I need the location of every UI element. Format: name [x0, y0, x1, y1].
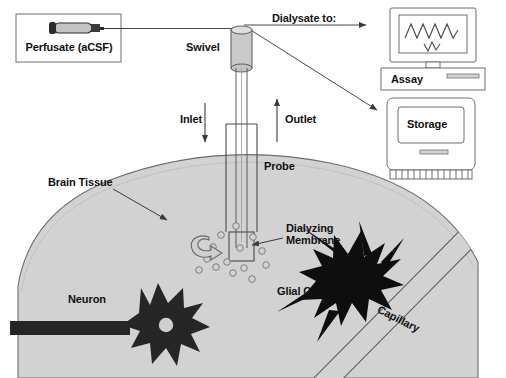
outlet-label: Outlet — [285, 113, 316, 125]
syringe-plunger — [49, 22, 56, 34]
storage-vents — [390, 170, 472, 179]
flow-arrows — [205, 99, 277, 142]
assay-label: Assay — [391, 73, 423, 85]
assay-slot — [447, 74, 479, 78]
storage-label: Storage — [407, 118, 447, 130]
probe-label: Probe — [264, 160, 295, 172]
diagram-svg — [0, 0, 506, 378]
neuron-nucleus — [159, 318, 173, 332]
syringe-barrel — [54, 23, 92, 33]
brain-tissue-label: Brain Tissue — [48, 176, 113, 188]
swivel-top-cap — [231, 26, 252, 34]
assay-screen — [399, 15, 467, 53]
swivel-label: Swivel — [186, 41, 220, 53]
swivel-cylinder-icon — [231, 26, 252, 72]
neuron-label: Neuron — [68, 293, 106, 305]
dialyzing-membrane-label-line2: Membrane — [286, 234, 340, 246]
perfusate-box — [16, 14, 124, 62]
swivel-body — [231, 30, 252, 68]
neuron-axon — [10, 321, 130, 335]
perfusate-box-outline — [16, 14, 121, 62]
glial-cell-label: Glial Cell — [277, 285, 323, 297]
line-to-storage — [246, 27, 377, 110]
syringe-hub — [91, 24, 100, 32]
storage-computer-icon — [387, 98, 475, 179]
dialysate-to-label: Dialysate to: — [272, 12, 336, 24]
inlet-label: Inlet — [180, 113, 202, 125]
perfusate-label: Perfusate (aCSF) — [23, 41, 115, 53]
dialyzing-membrane-label-line1: Dialyzing — [286, 222, 333, 234]
storage-disk-slot — [420, 150, 448, 154]
assay-monitor-neck — [426, 62, 440, 68]
diagram-canvas: Perfusate (aCSF) Swivel Inlet Outlet Pro… — [0, 0, 506, 378]
syringe-tip — [100, 27, 104, 30]
